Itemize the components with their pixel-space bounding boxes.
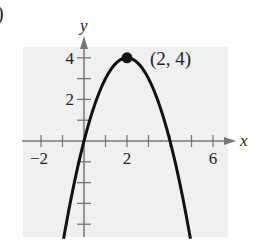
vertex-point xyxy=(122,52,133,63)
y-tick-label: 2 xyxy=(66,90,75,109)
x-tick-label: 2 xyxy=(123,149,132,168)
x-tick-label: 6 xyxy=(209,149,218,168)
y-axis-arrow-icon xyxy=(80,36,88,49)
y-axis-label: y xyxy=(78,16,88,35)
vertex-point-label: (2, 4) xyxy=(150,48,191,70)
y-tick-label: 4 xyxy=(66,49,75,68)
x-tick-label: −2 xyxy=(30,149,48,168)
parabola-chart: x y −22624 (2, 4) xyxy=(0,0,257,244)
x-axis-arrow-icon xyxy=(224,137,236,145)
plot-background xyxy=(23,47,228,237)
x-axis-label: x xyxy=(239,131,248,150)
